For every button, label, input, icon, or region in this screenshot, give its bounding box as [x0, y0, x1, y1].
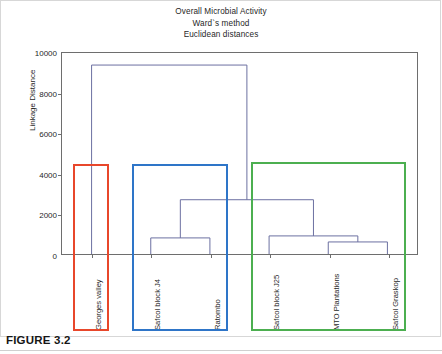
y-tick-label: 0 — [53, 252, 57, 261]
cluster-green — [251, 162, 406, 331]
chart-subtitle-method: Ward`s method — [0, 18, 442, 30]
figure-page: Overall Microbial Activity Ward`s method… — [0, 0, 442, 354]
y-axis-title: Linkage Distance — [28, 11, 37, 131]
chart-title-block: Overall Microbial Activity Ward`s method… — [0, 6, 442, 41]
chart-subtitle-distance: Euclidean distances — [0, 29, 442, 41]
y-tick-label: 6000 — [39, 130, 57, 139]
chart-title: Overall Microbial Activity — [0, 6, 442, 18]
y-tick-label: 8000 — [39, 89, 57, 98]
cluster-blue — [132, 164, 228, 331]
y-tick-label: 2000 — [39, 211, 57, 220]
y-tick-label: 10000 — [35, 49, 57, 58]
figure-caption: FIGURE 3.2 — [6, 334, 71, 346]
y-tick-label: 4000 — [39, 170, 57, 179]
caption-divider — [0, 350, 442, 351]
cluster-red — [73, 164, 109, 331]
